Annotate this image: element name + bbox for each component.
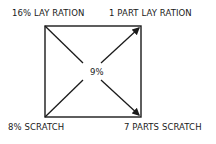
center-label: 9% — [90, 67, 104, 77]
pearson-square — [0, 0, 216, 144]
